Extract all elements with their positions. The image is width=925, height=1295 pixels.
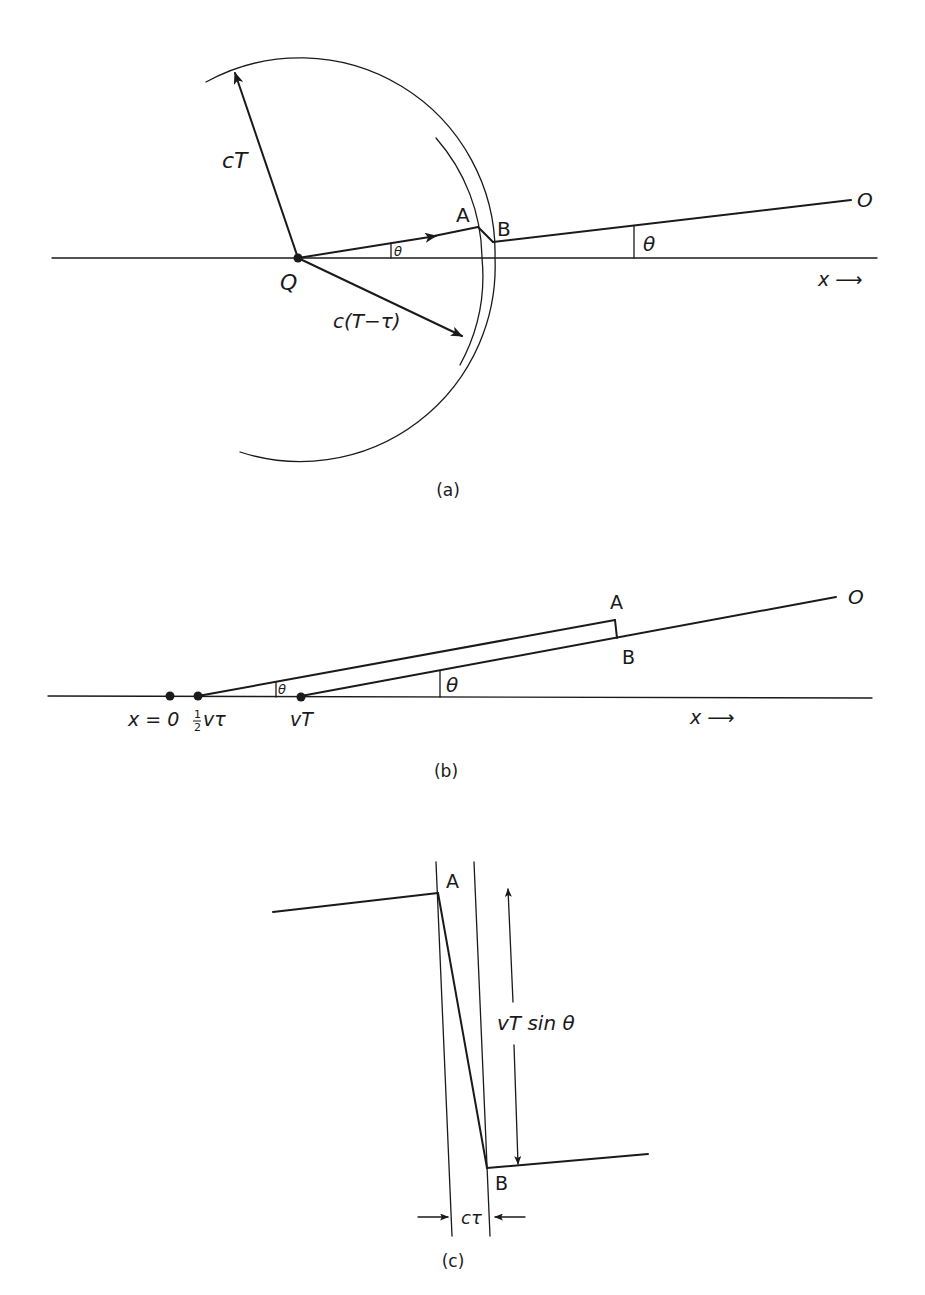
inner-wavefront-arc bbox=[436, 138, 483, 365]
label-point-b: B bbox=[495, 1172, 508, 1194]
label-theta-small: θ bbox=[394, 244, 402, 259]
half-vtau-expr: vτ bbox=[203, 708, 226, 730]
segment-a-b bbox=[615, 620, 617, 638]
ray-vt-to-o bbox=[301, 597, 836, 696]
outer-wavefront-arc bbox=[206, 58, 495, 462]
label-point-a: A bbox=[446, 870, 459, 892]
ray-b-to-o bbox=[493, 200, 851, 242]
label-point-a: A bbox=[456, 203, 470, 227]
dimension-arrow-up bbox=[508, 889, 513, 1002]
ray-to-a bbox=[198, 620, 615, 696]
label-x-axis: x ⟶ bbox=[689, 706, 735, 728]
label-observer-o: O bbox=[848, 585, 864, 609]
caption-c: (c) bbox=[442, 1251, 465, 1271]
label-point-b: B bbox=[622, 646, 635, 668]
figure-canvas: cT Q c(T−τ) A B θ θ O x ⟶ (a) x = 0 1 2 … bbox=[0, 0, 925, 1295]
point-q-dot bbox=[294, 254, 303, 263]
label-observer-o: O bbox=[857, 188, 873, 212]
wavefront-line-right bbox=[474, 862, 490, 1236]
caption-a: (a) bbox=[436, 480, 460, 500]
point-vt-dot bbox=[297, 693, 306, 702]
caption-b: (b) bbox=[434, 761, 458, 781]
label-theta-small: θ bbox=[278, 682, 286, 697]
ray-to-a bbox=[273, 893, 438, 912]
label-vt-sin-theta: vT sin θ bbox=[497, 1011, 575, 1035]
label-vt: vT bbox=[290, 708, 314, 730]
point-x0-dot bbox=[166, 692, 175, 701]
point-half-vtau-dot bbox=[194, 692, 203, 701]
panel-c: A B vT sin θ cτ (c) bbox=[273, 862, 648, 1271]
ray-from-b bbox=[487, 1154, 648, 1168]
label-half-vtau: 1 2 vτ bbox=[193, 708, 226, 734]
label-x-axis: x ⟶ bbox=[817, 268, 863, 290]
fraction-denominator: 2 bbox=[194, 721, 201, 734]
label-theta-large: θ bbox=[643, 232, 655, 256]
label-point-a: A bbox=[610, 591, 623, 613]
label-q: Q bbox=[280, 270, 297, 295]
label-point-b: B bbox=[497, 217, 511, 241]
segment-a-b bbox=[438, 893, 487, 1168]
fraction-numerator: 1 bbox=[194, 708, 201, 721]
label-x-equals-0: x = 0 bbox=[127, 708, 179, 730]
label-c-t-minus-tau: c(T−τ) bbox=[333, 309, 401, 333]
label-theta-large: θ bbox=[446, 673, 458, 697]
wavefront-line-left bbox=[436, 862, 452, 1236]
ray-segment-to-a bbox=[434, 227, 478, 236]
panel-b: x = 0 1 2 vτ vT θ θ A B O x ⟶ (b) bbox=[48, 585, 872, 781]
panel-a: cT Q c(T−τ) A B θ θ O x ⟶ (a) bbox=[52, 58, 877, 500]
label-ct: cT bbox=[222, 148, 249, 173]
ray-q-to-a-arrow bbox=[298, 236, 436, 258]
dimension-arrow-down bbox=[514, 1045, 518, 1164]
label-c-tau: cτ bbox=[461, 1207, 482, 1228]
